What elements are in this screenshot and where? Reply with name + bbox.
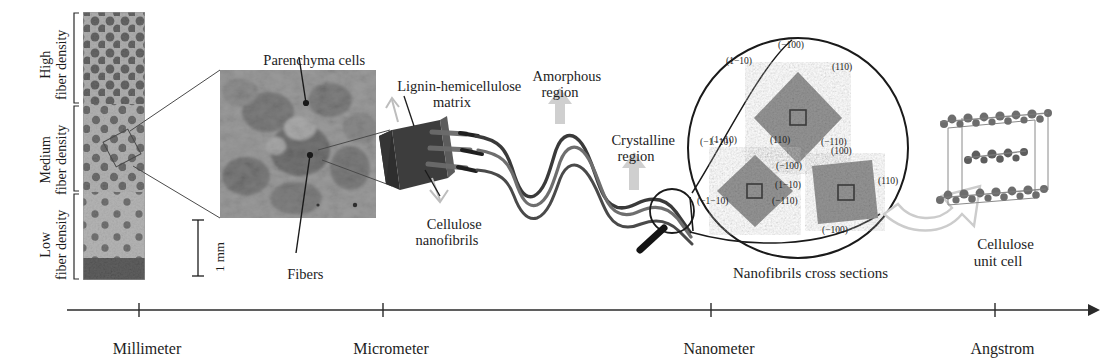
axis-label-millimeter: Millimeter xyxy=(79,322,199,362)
plane-label-d2-lower-left-text: (−1−10) xyxy=(697,196,728,206)
scale-bar xyxy=(192,220,204,276)
callout-crystalline-region: Crystalline region xyxy=(586,116,686,181)
plane-label-d1-upper-left: (1−10) xyxy=(726,56,752,66)
density-label-high-text: High fiber density xyxy=(38,30,70,100)
callout-lignin-matrix-text: Lignin-hemicellulose matrix xyxy=(397,78,521,110)
micrograph-image xyxy=(220,70,377,218)
plane-label-d1-upper-right-text: (110) xyxy=(832,62,852,72)
callout-parenchyma-cells-text: Parenchyma cells xyxy=(263,52,365,68)
plane-label-s1-left-text: (1−10) xyxy=(775,180,801,190)
callout-fibers: Fibers xyxy=(248,250,348,299)
callout-unit-cell: Cellulose unit cell xyxy=(938,219,1058,286)
nanofibrils-pointer-arrow xyxy=(430,178,448,202)
callout-crystalline-region-text: Crystalline region xyxy=(611,132,675,164)
callout-cellulose-nanofibrils-text: Cellulose nanofibrils xyxy=(416,216,482,248)
plane-label-d1-bottom: (−100) xyxy=(776,161,802,171)
plane-label-d2-lower-right-text: (−110) xyxy=(772,196,798,206)
plane-label-d2-lower-right: (−110) xyxy=(772,196,798,206)
plane-label-d1-upper-right: (110) xyxy=(832,62,852,72)
density-brackets xyxy=(74,13,79,279)
plane-label-d2-upper-right: (110) xyxy=(770,135,790,145)
axis-label-angstrom: Angstrom xyxy=(940,322,1050,362)
density-label-low: Low fiber density xyxy=(38,210,70,280)
callout-fibers-text: Fibers xyxy=(287,266,323,282)
plane-label-d1-top-text: (−100) xyxy=(778,40,804,50)
plane-label-s1-top: (100) xyxy=(831,146,852,156)
plane-label-d1-top: (−100) xyxy=(778,40,804,50)
nanofibril-rod xyxy=(640,228,664,250)
plane-label-s1-right-text: (110) xyxy=(878,176,898,186)
density-label-high: High fiber density xyxy=(38,30,70,100)
callout-unit-cell-text: Cellulose unit cell xyxy=(974,236,1034,269)
callout-lignin-matrix: Lignin-hemicellulose matrix xyxy=(372,62,532,127)
callout-amorphous-region: Amorphous region xyxy=(510,52,610,117)
plane-label-s1-top-text: (100) xyxy=(831,146,852,156)
callout-cross-sections-text: Nanofibrils cross sections xyxy=(733,265,888,281)
plane-label-d1-upper-left-text: (1−10) xyxy=(726,56,752,66)
density-label-low-text: Low fiber density xyxy=(38,210,70,280)
callout-cross-sections: Nanofibrils cross sections xyxy=(688,248,918,298)
plane-label-s1-bottom-text: (−100) xyxy=(822,225,848,235)
axis-label-nanometer-text: Nanometer xyxy=(683,340,754,357)
axis-label-micrometer-text: Micrometer xyxy=(353,340,429,357)
cross-section-square-right xyxy=(812,160,878,224)
plane-label-d2-lower-left: (−1−10) xyxy=(697,196,728,206)
scale-axis xyxy=(67,303,1100,317)
plane-label-d2-upper-left-text: (1−10) xyxy=(711,135,737,145)
plane-label-d1-bottom-text: (−100) xyxy=(776,161,802,171)
callout-cellulose-nanofibrils: Cellulose nanofibrils xyxy=(392,200,502,265)
plane-label-d2-upper-right-text: (110) xyxy=(770,135,790,145)
cellulose-unit-cell-model xyxy=(936,109,1052,205)
axis-label-angstrom-text: Angstrom xyxy=(971,340,1035,357)
axis-label-millimeter-text: Millimeter xyxy=(113,340,181,357)
density-label-medium-text: Medium fiber density xyxy=(38,125,70,195)
density-label-medium: Medium fiber density xyxy=(38,125,70,195)
plane-label-s1-bottom: (−100) xyxy=(822,225,848,235)
callout-amorphous-region-text: Amorphous region xyxy=(533,68,601,100)
plane-label-s1-left: (1−10) xyxy=(775,180,801,190)
axis-label-micrometer: Micrometer xyxy=(323,322,443,362)
callout-parenchyma-cells: Parenchyma cells xyxy=(232,36,382,85)
cross-section-diamond-top xyxy=(754,72,842,164)
axis-label-nanometer: Nanometer xyxy=(653,322,769,362)
scale-bar-label: 1 mm xyxy=(212,242,228,272)
scale-bar-label-text: 1 mm xyxy=(212,242,227,272)
plane-label-s1-right: (110) xyxy=(878,176,898,186)
plane-label-d2-upper-left: (1−10) xyxy=(711,135,737,145)
macro-strip-image xyxy=(83,12,145,280)
